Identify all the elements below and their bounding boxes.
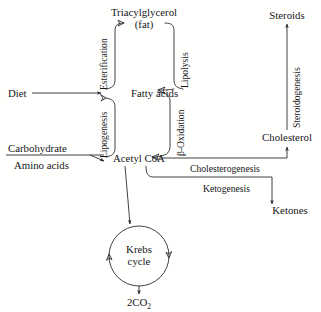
node-co2: 2CO2 bbox=[127, 296, 151, 311]
co2-main-text: 2CO bbox=[127, 296, 148, 308]
node-fatty-acids: Fatty acids bbox=[131, 87, 178, 99]
co2-subscript-text: 2 bbox=[147, 302, 151, 311]
node-diet: Diet bbox=[8, 87, 27, 99]
node-steroids: Steroids bbox=[269, 9, 304, 21]
edge-label-lipogenesis: Lipogenesis bbox=[98, 111, 109, 158]
acetyl-to-krebs-line bbox=[125, 166, 130, 224]
node-cholesterol: Cholesterol bbox=[262, 131, 312, 143]
edge-label-lipolysis: Lipolysis bbox=[179, 52, 190, 88]
edge-label-steroidogenesis: Steroidogenesis bbox=[291, 67, 302, 128]
lipogenesis-arrowhead bbox=[101, 95, 107, 102]
node-triacylglycerol-line1: Triacylglycerol bbox=[111, 6, 177, 18]
edge-label-beta-oxidation: β-Oxidation bbox=[175, 109, 186, 156]
pathway-svg-canvas: Triacylglycerol (fat) Diet Fatty acids C… bbox=[0, 0, 321, 312]
node-krebs-line2: cycle bbox=[128, 255, 151, 267]
edge-label-cholesterogenesis: Cholesterogenesis bbox=[190, 163, 260, 174]
edge-label-ketogenesis: Ketogenesis bbox=[203, 183, 250, 194]
edge-label-esterification: Esterification bbox=[98, 38, 109, 90]
node-carbohydrate: Carbohydrate bbox=[8, 142, 67, 154]
node-amino-acids: Amino acids bbox=[14, 159, 69, 171]
metabolism-pathway-diagram: Triacylglycerol (fat) Diet Fatty acids C… bbox=[0, 0, 321, 312]
node-ketones: Ketones bbox=[272, 204, 307, 216]
node-krebs-line1: Krebs bbox=[126, 243, 152, 255]
node-acetyl-coa: Acetyl CoA bbox=[113, 152, 165, 164]
node-triacylglycerol-line2: (fat) bbox=[135, 18, 154, 31]
beta-oxidation-brace bbox=[158, 92, 170, 156]
